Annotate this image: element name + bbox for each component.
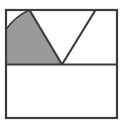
geometry-figure-svg: Square with inscribed triangle and shade… xyxy=(0,0,127,124)
geometry-figure-container: Square with inscribed triangle and shade… xyxy=(0,0,127,124)
